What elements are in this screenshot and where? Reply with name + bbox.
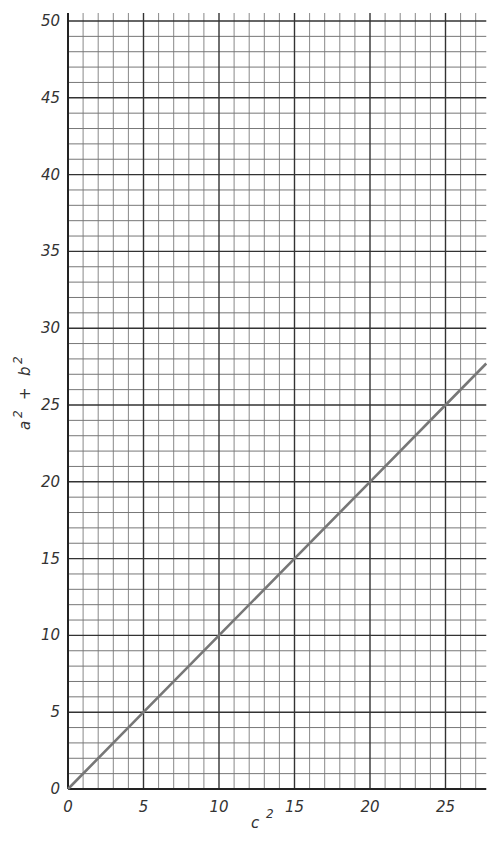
minor-grid (68, 13, 486, 789)
y-axis-label-b: b (16, 366, 34, 376)
x-tick-label: 0 (63, 798, 73, 816)
y-axis-label-b-sup: 2 (11, 356, 25, 364)
y-tick-label: 50 (41, 12, 60, 30)
series-line (68, 364, 486, 789)
y-tick-labels: 05101520253035404550 (41, 12, 60, 798)
x-axis-label: c 2 (251, 807, 274, 832)
y-axis-label: a 2 + b 2 (11, 356, 34, 430)
x-tick-label: 25 (436, 798, 455, 816)
y-tick-label: 40 (41, 166, 60, 184)
y-tick-label: 20 (41, 473, 60, 491)
x-axis-label-sup: 2 (266, 807, 274, 821)
y-tick-label: 15 (41, 550, 60, 568)
major-grid (68, 13, 486, 789)
data-series (68, 364, 486, 789)
y-tick-label: 10 (41, 626, 60, 644)
y-tick-label: 45 (41, 89, 60, 107)
y-tick-label: 25 (41, 396, 60, 414)
y-tick-label: 0 (50, 780, 60, 798)
x-tick-label: 10 (209, 798, 228, 816)
x-tick-label: 15 (285, 798, 304, 816)
y-axis-label-a: a (16, 421, 34, 430)
y-tick-label: 35 (41, 242, 60, 260)
axes (68, 13, 486, 789)
y-tick-label: 30 (41, 319, 60, 337)
graph-paper-chart: 0510152025 05101520253035404550 c 2 a 2 … (0, 0, 498, 841)
x-axis-label-c: c (251, 814, 260, 832)
y-axis-label-plus: + (16, 387, 34, 400)
y-tick-label: 5 (50, 703, 60, 721)
x-tick-label: 20 (360, 798, 379, 816)
x-tick-label: 5 (139, 798, 149, 816)
y-axis-label-a-sup: 2 (11, 410, 25, 418)
